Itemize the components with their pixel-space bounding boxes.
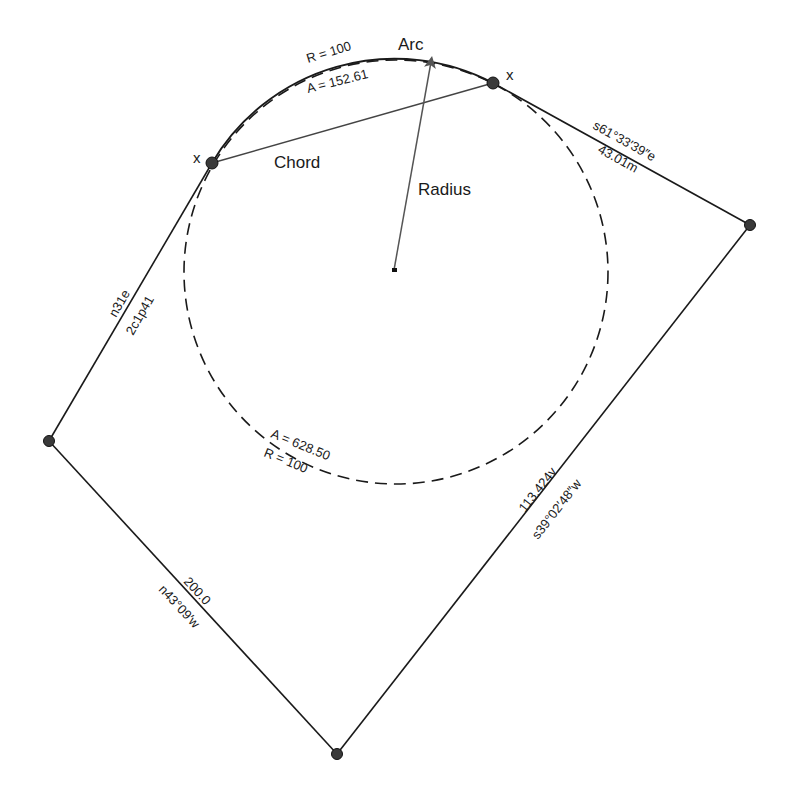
chord-label: Chord (274, 153, 320, 172)
point-marker-south (332, 749, 343, 760)
point-mark-left: x (193, 149, 201, 166)
arc-length-annotation: A = 152.61 (305, 66, 369, 96)
arc-label: Arc (398, 35, 424, 54)
point-marker-left (206, 157, 218, 169)
point-marker-east (745, 220, 756, 231)
boundary-line-west (49, 163, 212, 441)
boundary-line-south-west (49, 441, 337, 754)
survey-diagram: x x Arc Chord Radius R = 100 A = 152.61 … (0, 0, 790, 791)
point-mark-right: x (506, 66, 514, 83)
arc-radius-annotation: R = 100 (304, 38, 352, 66)
radius-label: Radius (418, 180, 471, 199)
center-point (392, 268, 397, 272)
radius-arrow (394, 62, 431, 270)
point-marker-right (487, 77, 499, 89)
point-marker-west (44, 436, 55, 447)
chord-line (212, 83, 493, 163)
